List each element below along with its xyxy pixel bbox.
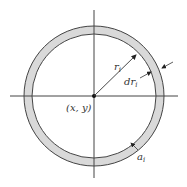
annulus-diagram: ri dri (x, y) ai (0, 0, 187, 187)
dr-arrow-inner (140, 72, 151, 78)
area-label: ai (137, 151, 145, 164)
dr-arrow-outer (162, 62, 173, 68)
radius-label: ri (114, 61, 121, 74)
center-label: (x, y) (66, 102, 92, 113)
thickness-label: dri (124, 76, 137, 89)
